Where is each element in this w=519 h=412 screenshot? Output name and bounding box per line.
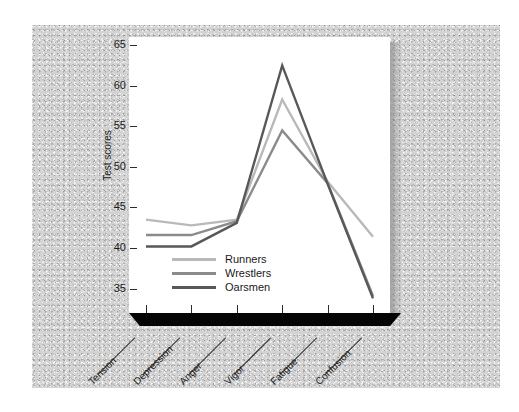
panel-drop-shadow bbox=[390, 42, 401, 318]
y-tick-label: 65 bbox=[100, 39, 126, 50]
y-tick-mark bbox=[130, 248, 137, 249]
y-tick-mark bbox=[130, 289, 137, 290]
x-tick-mark bbox=[328, 305, 329, 313]
x-tick-label: Vigor bbox=[222, 363, 246, 387]
x-tick-mark bbox=[282, 305, 283, 313]
y-tick-mark bbox=[130, 167, 137, 168]
line-chart: Test scores 65605550454035 TensionDepres… bbox=[0, 0, 519, 412]
y-tick-label: 55 bbox=[100, 120, 126, 131]
y-axis-title: Test scores bbox=[102, 130, 113, 181]
legend-swatch-wrestlers bbox=[172, 272, 216, 275]
y-tick-mark bbox=[130, 45, 137, 46]
legend-item: Oarsmen bbox=[172, 280, 271, 294]
x-tick-mark bbox=[146, 305, 147, 313]
legend-swatch-runners bbox=[172, 258, 216, 261]
legend-item: Runners bbox=[172, 252, 271, 266]
legend-label: Runners bbox=[225, 254, 267, 265]
y-tick-label: 60 bbox=[100, 80, 126, 91]
y-tick-label: 40 bbox=[100, 242, 126, 253]
y-tick-mark bbox=[130, 126, 137, 127]
y-tick-label: 35 bbox=[100, 283, 126, 294]
x-tick-label: Depression bbox=[132, 343, 176, 387]
x-tick-mark bbox=[237, 305, 238, 313]
x-tick-mark bbox=[191, 305, 192, 313]
y-tick-mark bbox=[130, 207, 137, 208]
x-tick-mark bbox=[373, 305, 374, 313]
x-tick-label: Tension bbox=[86, 355, 118, 387]
y-tick-label: 45 bbox=[100, 201, 126, 212]
y-tick-label: 50 bbox=[100, 161, 126, 172]
y-tick-mark bbox=[130, 86, 137, 87]
chart-base-slab bbox=[129, 313, 401, 326]
x-tick-label: Anger bbox=[177, 360, 204, 387]
x-tick-label: Confusion bbox=[313, 347, 353, 387]
chart-legend: RunnersWrestlersOarsmen bbox=[172, 252, 271, 294]
x-tick-label: Fatigue bbox=[268, 356, 299, 387]
legend-item: Wrestlers bbox=[172, 266, 271, 280]
legend-label: Oarsmen bbox=[225, 282, 270, 293]
legend-swatch-oarsmen bbox=[172, 286, 216, 289]
legend-label: Wrestlers bbox=[225, 268, 271, 279]
